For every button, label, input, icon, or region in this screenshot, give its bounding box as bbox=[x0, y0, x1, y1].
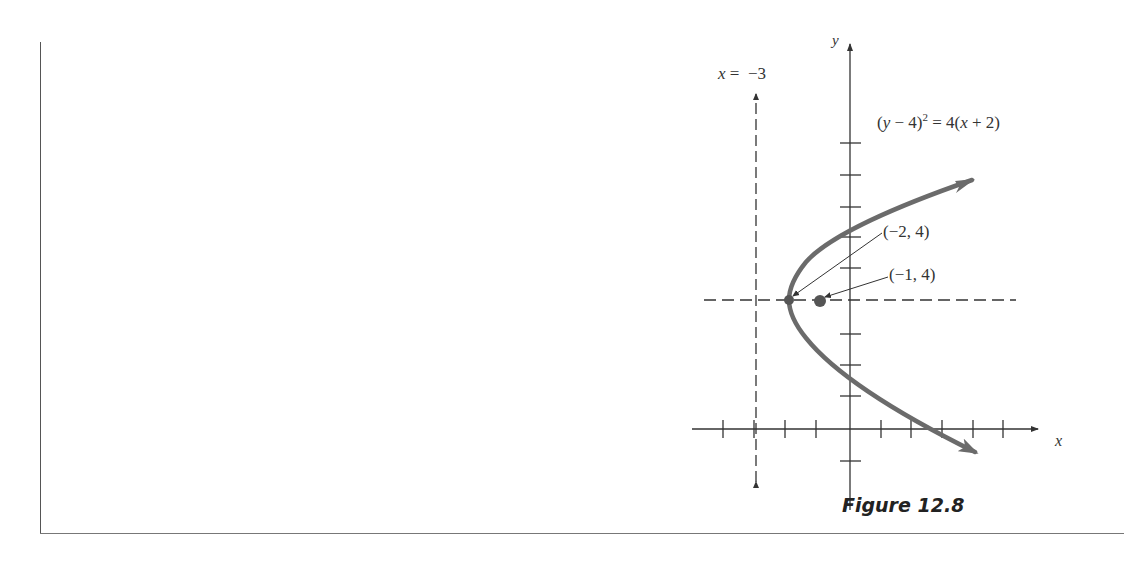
directrix-label: x = −3 bbox=[718, 64, 766, 84]
directrix-rest: = −3 bbox=[726, 64, 766, 83]
y-axis bbox=[840, 44, 861, 510]
vertex-point bbox=[784, 295, 794, 305]
eq-rhs-post: + 2) bbox=[968, 113, 1000, 132]
eq-x: x bbox=[960, 113, 968, 132]
equation-label: (y − 4)2 = 4(x + 2) bbox=[877, 111, 1000, 133]
y-axis-label: y bbox=[832, 32, 839, 49]
vertex-label: (−2, 4) bbox=[883, 222, 929, 242]
figure-caption: Figure 12.8 bbox=[842, 494, 964, 516]
parabola-curve bbox=[789, 180, 975, 452]
directrix-var: x bbox=[718, 64, 726, 83]
eq-rhs-pre: = 4( bbox=[928, 113, 960, 132]
focus-label: (−1, 4) bbox=[889, 265, 935, 285]
x-axis-label: x bbox=[1055, 432, 1062, 450]
focus-point bbox=[814, 295, 826, 307]
x-axis bbox=[692, 420, 1038, 438]
eq-lhs-rest: − 4) bbox=[890, 113, 922, 132]
focus-leader bbox=[825, 277, 888, 297]
